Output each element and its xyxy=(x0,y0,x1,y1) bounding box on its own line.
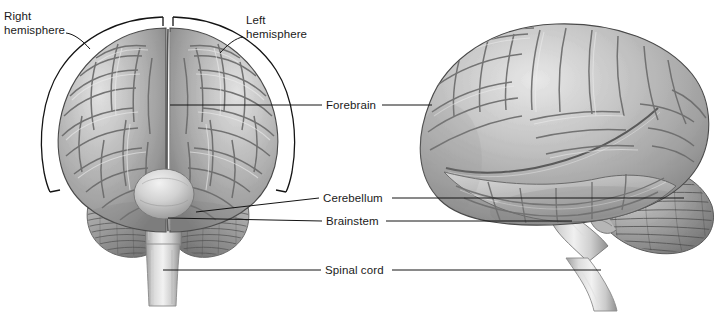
posterior-spinal-cord xyxy=(146,244,180,306)
label-left-hemisphere: Left hemisphere xyxy=(246,13,307,41)
posterior-vermis xyxy=(134,169,194,219)
lateral-brain-view xyxy=(414,24,719,311)
label-left-hemisphere-line1: Left xyxy=(246,14,266,26)
posterior-brain-view xyxy=(58,28,278,306)
label-brainstem: Brainstem xyxy=(326,215,379,229)
label-right-hemisphere: Right hemisphere xyxy=(4,9,65,37)
label-cerebellum: Cerebellum xyxy=(323,192,383,206)
label-right-hemisphere-line2: hemisphere xyxy=(4,24,65,36)
label-spinal-cord: Spinal cord xyxy=(325,264,384,278)
label-right-hemisphere-line1: Right xyxy=(4,10,31,22)
label-forebrain: Forebrain xyxy=(326,99,376,113)
label-left-hemisphere-line2: hemisphere xyxy=(246,28,307,40)
lateral-spinal-cord xyxy=(566,258,617,311)
